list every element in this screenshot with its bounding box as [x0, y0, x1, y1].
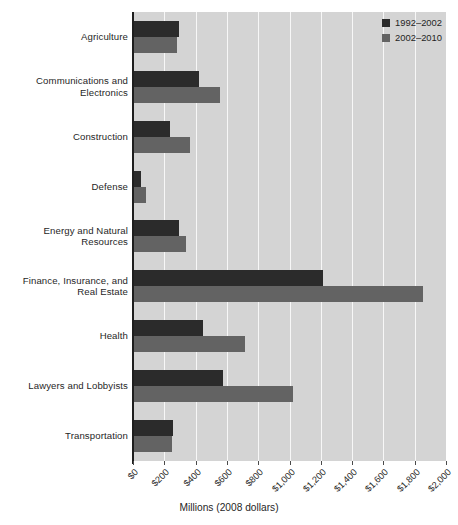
legend-swatch-icon [382, 34, 390, 42]
bar [133, 320, 203, 336]
legend-item-label: 1992–2002 [395, 17, 442, 28]
bar-group [133, 112, 446, 162]
bar [133, 171, 141, 187]
legend-item[interactable]: 2002–2010 [382, 32, 442, 43]
y-axis-label: Energy and NaturalResources [0, 225, 128, 248]
y-axis-label-line: Real Estate [0, 286, 128, 298]
bar [133, 370, 223, 386]
bar [133, 336, 245, 352]
bar [133, 137, 190, 153]
x-axis-tickmark [258, 461, 259, 465]
x-axis-tickmark [321, 461, 322, 465]
y-axis-label: Finance, Insurance, andReal Estate [0, 275, 128, 298]
x-axis-tickmark [227, 461, 228, 465]
y-axis-label-line: Finance, Insurance, and [0, 275, 128, 287]
y-axis-label-line: Construction [0, 131, 128, 143]
x-axis-tickmark [164, 461, 165, 465]
bar-group [133, 361, 446, 411]
y-axis-label-line: Energy and Natural [0, 225, 128, 237]
x-axis-tickmark [383, 461, 384, 465]
bar-group [133, 411, 446, 461]
bar [133, 121, 170, 137]
plot-area [133, 12, 446, 461]
bar [133, 220, 179, 236]
bar-group [133, 212, 446, 262]
bar [133, 37, 177, 53]
bar-group [133, 62, 446, 112]
legend-item[interactable]: 1992–2002 [382, 17, 442, 28]
y-axis-label-line: Health [0, 330, 128, 342]
bar [133, 187, 146, 203]
bar [133, 87, 220, 103]
y-axis-label-line: Electronics [0, 87, 128, 99]
x-axis-tickmark [196, 461, 197, 465]
bar-group [133, 311, 446, 361]
bar-chart: AgricultureCommunications andElectronics… [0, 0, 458, 525]
y-axis-label: Agriculture [0, 31, 128, 43]
bar-group [133, 261, 446, 311]
bar [133, 386, 293, 402]
x-axis-title: Millions (2008 dollars) [0, 502, 458, 513]
bar [133, 436, 172, 452]
bar [133, 236, 186, 252]
x-axis-tickmark [415, 461, 416, 465]
y-axis-line [132, 12, 134, 464]
y-axis-label-line: Lawyers and Lobbyists [0, 380, 128, 392]
x-axis-tickmark [352, 461, 353, 465]
y-axis-label-line: Transportation [0, 430, 128, 442]
y-axis-label: Lawyers and Lobbyists [0, 380, 128, 392]
bar [133, 21, 179, 37]
y-axis-label: Health [0, 330, 128, 342]
bar-group [133, 162, 446, 212]
legend-swatch-icon [382, 19, 390, 27]
y-axis-label-line: Resources [0, 236, 128, 248]
x-axis-tickmark [446, 461, 447, 465]
y-axis-label: Defense [0, 181, 128, 193]
legend-item-label: 2002–2010 [395, 32, 442, 43]
bar [133, 420, 173, 436]
y-axis-label-line: Communications and [0, 75, 128, 87]
y-axis-label: Communications andElectronics [0, 75, 128, 98]
bar [133, 71, 199, 87]
chart-legend: 1992–20022002–2010 [382, 17, 442, 47]
y-axis-label-line: Defense [0, 181, 128, 193]
x-axis-tickmark [133, 461, 134, 465]
y-axis-label: Transportation [0, 430, 128, 442]
y-axis-label: Construction [0, 131, 128, 143]
x-axis-tick-labels: $0$200$400$600$800$1,000$1,200$1,400$1,6… [0, 461, 458, 501]
x-axis-tickmark [290, 461, 291, 465]
bar [133, 270, 323, 286]
y-axis-label-line: Agriculture [0, 31, 128, 43]
y-axis-category-labels: AgricultureCommunications andElectronics… [0, 12, 128, 461]
bar [133, 286, 423, 302]
